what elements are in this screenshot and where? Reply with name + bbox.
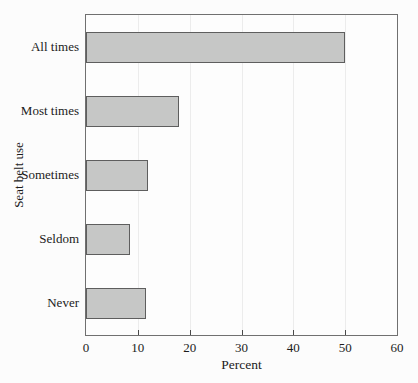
x-gridline-20: [190, 15, 191, 335]
category-label-sometimes: Sometimes: [0, 166, 79, 184]
x-tick-mark-50: [345, 330, 346, 335]
bar-never: [86, 288, 146, 319]
x-tick-label-20: 20: [170, 340, 210, 356]
x-tick-mark-10: [138, 330, 139, 335]
bar-all-times: [86, 32, 345, 63]
x-tick-label-30: 30: [222, 340, 262, 356]
bar-most-times: [86, 96, 179, 127]
seat-belt-use-bar-chart: Seat belt use All timesMost timesSometim…: [0, 0, 418, 383]
category-label-all-times: All times: [0, 38, 79, 56]
category-label-seldom: Seldom: [0, 230, 79, 248]
bar-sometimes: [86, 160, 148, 191]
x-tick-label-10: 10: [118, 340, 158, 356]
x-tick-label-0: 0: [66, 340, 106, 356]
x-gridline-30: [242, 15, 243, 335]
x-tick-mark-20: [190, 330, 191, 335]
bar-seldom: [86, 224, 130, 255]
plot-area: [85, 14, 398, 336]
x-gridline-40: [293, 15, 294, 335]
category-label-never: Never: [0, 294, 79, 312]
x-tick-label-40: 40: [273, 340, 313, 356]
x-gridline-50: [345, 15, 346, 335]
x-tick-mark-40: [293, 330, 294, 335]
x-axis-title: Percent: [85, 357, 398, 373]
x-tick-mark-30: [242, 330, 243, 335]
x-tick-label-50: 50: [325, 340, 365, 356]
x-tick-label-60: 60: [377, 340, 417, 356]
category-label-most-times: Most times: [0, 102, 79, 120]
